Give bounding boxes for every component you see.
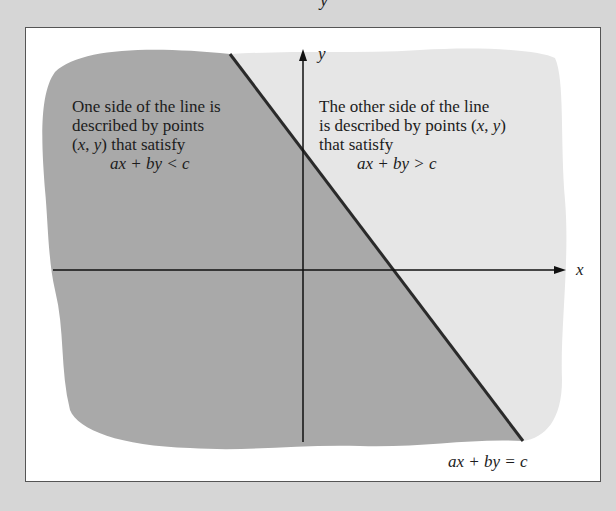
right-inequality: ax + by > c xyxy=(319,154,506,173)
left-text-line1: One side of the line is xyxy=(72,97,221,116)
right-text-line2: is described by points (x, y) xyxy=(319,116,506,135)
x-axis-label: x xyxy=(576,260,584,280)
half-plane-diagram xyxy=(0,0,616,511)
left-region-description: One side of the line is described by poi… xyxy=(72,97,221,173)
y-axis-label: y xyxy=(318,44,326,64)
right-text-line1: The other side of the line xyxy=(319,97,506,116)
left-text-line2: described by points xyxy=(72,116,221,135)
line-equation-label: ax + by = c xyxy=(448,452,528,471)
left-text-line3: (x, y) that satisfy xyxy=(72,135,221,154)
left-inequality: ax + by < c xyxy=(72,154,221,173)
right-text-line3: that satisfy xyxy=(319,135,506,154)
right-region-description: The other side of the line is described … xyxy=(319,97,506,173)
